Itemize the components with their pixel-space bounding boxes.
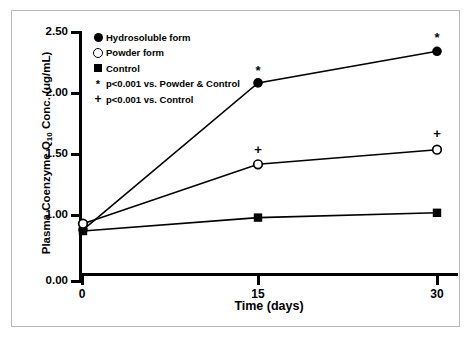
legend-label-powder: Powder form (106, 47, 164, 58)
data-point-control-30 (433, 209, 441, 217)
filled-square-icon (90, 64, 106, 73)
figure: 2.50 2.00 1.50 1.00 0.00 0 15 30 Plasma … (0, 0, 471, 339)
legend-label-asterisk-note: p<0.001 vs. Powder & Control (106, 78, 240, 89)
legend-item-control: Control (90, 61, 290, 75)
plot-area: 2.50 2.00 1.50 1.00 0.00 0 15 30 Plasma … (0, 0, 471, 339)
legend-label-control: Control (106, 63, 140, 74)
significance-mark-powder-15: + (251, 145, 265, 155)
chart-legend: Hydrosoluble form Powder form Control * … (90, 30, 290, 108)
data-point-control-15 (254, 213, 262, 221)
data-point-hydrosoluble-30 (432, 47, 442, 57)
data-point-powder-0 (79, 219, 88, 228)
data-point-powder-30 (433, 145, 442, 154)
significance-mark-powder-30: + (430, 129, 444, 139)
plus-icon: + (90, 95, 106, 103)
filled-circle-icon (90, 33, 106, 42)
legend-item-plus-note: + p<0.001 vs. Control (90, 92, 290, 106)
data-point-powder-15 (254, 160, 263, 169)
legend-label-hydrosoluble: Hydrosoluble form (106, 32, 190, 43)
significance-mark-hydrosoluble-30: * (430, 33, 444, 43)
legend-item-powder: Powder form (90, 46, 290, 60)
legend-item-asterisk-note: * p<0.001 vs. Powder & Control (90, 77, 290, 91)
legend-item-hydrosoluble: Hydrosoluble form (90, 30, 290, 44)
asterisk-icon: * (90, 81, 106, 87)
open-circle-icon (90, 48, 106, 58)
legend-label-plus-note: p<0.001 vs. Control (106, 94, 193, 105)
